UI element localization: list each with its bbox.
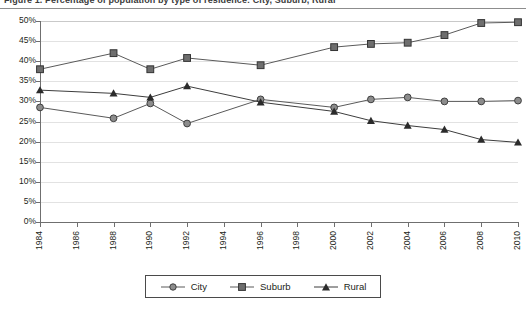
data-point[interactable] bbox=[184, 55, 191, 62]
data-point[interactable] bbox=[37, 66, 44, 73]
data-point[interactable] bbox=[368, 41, 375, 48]
legend-label-city: City bbox=[191, 281, 207, 292]
legend-item-rural[interactable]: Rural bbox=[313, 281, 367, 293]
triangle-marker-icon bbox=[313, 281, 339, 293]
legend-item-suburb[interactable]: Suburb bbox=[229, 281, 291, 293]
legend-item-city[interactable]: City bbox=[160, 281, 207, 293]
series-suburb bbox=[37, 19, 522, 73]
data-point[interactable] bbox=[331, 44, 338, 51]
data-point[interactable] bbox=[110, 50, 117, 57]
legend-label-suburb: Suburb bbox=[260, 281, 291, 292]
data-point[interactable] bbox=[184, 120, 191, 127]
data-point[interactable] bbox=[147, 66, 154, 73]
data-point[interactable] bbox=[147, 100, 154, 107]
data-point[interactable] bbox=[404, 39, 411, 46]
data-point[interactable] bbox=[110, 115, 117, 122]
data-point[interactable] bbox=[478, 20, 485, 27]
chart-legend: City Suburb Rural bbox=[145, 275, 381, 298]
chart-figure: Figure 1. Percentage of population by ty… bbox=[0, 0, 526, 312]
square-marker-icon bbox=[229, 281, 255, 293]
legend-label-rural: Rural bbox=[344, 281, 367, 292]
data-point[interactable] bbox=[368, 96, 375, 103]
data-point[interactable] bbox=[441, 98, 448, 105]
circle-marker-icon bbox=[160, 281, 186, 293]
data-point[interactable] bbox=[183, 82, 191, 89]
data-point[interactable] bbox=[404, 94, 411, 101]
data-point[interactable] bbox=[441, 32, 448, 39]
data-point[interactable] bbox=[257, 62, 264, 69]
data-point[interactable] bbox=[515, 97, 522, 104]
series-rural bbox=[36, 82, 522, 145]
data-point[interactable] bbox=[515, 19, 522, 26]
data-point[interactable] bbox=[36, 86, 44, 93]
series-city bbox=[37, 94, 522, 127]
series-line bbox=[40, 22, 518, 69]
data-point[interactable] bbox=[37, 104, 44, 111]
data-point[interactable] bbox=[478, 98, 485, 105]
plot-area bbox=[0, 0, 526, 312]
